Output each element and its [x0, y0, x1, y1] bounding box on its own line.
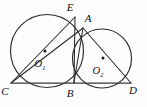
center-dot-o1: [44, 50, 47, 53]
label-point-a: A: [84, 12, 92, 24]
geometry-canvas: E A C B D O1 O2: [0, 0, 147, 107]
circle-o1: [11, 15, 84, 88]
label-point-b: B: [67, 87, 74, 99]
label-center-o2-subscript: 2: [100, 71, 104, 78]
label-center-o2: O2: [93, 65, 105, 78]
label-center-o1: O1: [35, 58, 46, 71]
label-point-d: D: [128, 84, 137, 96]
segment-ab: [74, 28, 83, 83]
label-point-c: C: [1, 85, 9, 97]
segment-ad: [83, 28, 131, 83]
label-point-e: E: [66, 1, 74, 13]
center-dot-o2: [102, 57, 105, 60]
geometry-figure: E A C B D O1 O2: [0, 0, 147, 107]
segment-ce: [11, 17, 75, 83]
label-center-o1-subscript: 1: [42, 64, 45, 71]
